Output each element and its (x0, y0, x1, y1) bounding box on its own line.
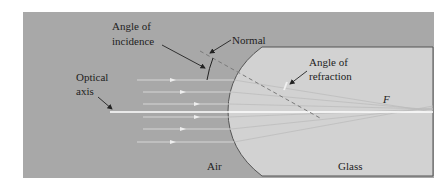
glass-label: Glass (338, 160, 362, 172)
refraction-diagram: Angle of incidence Normal Angle of refra… (0, 0, 435, 193)
focal-point-label: F (382, 93, 390, 105)
normal-label: Normal (232, 34, 266, 46)
air-label: Air (207, 160, 222, 172)
